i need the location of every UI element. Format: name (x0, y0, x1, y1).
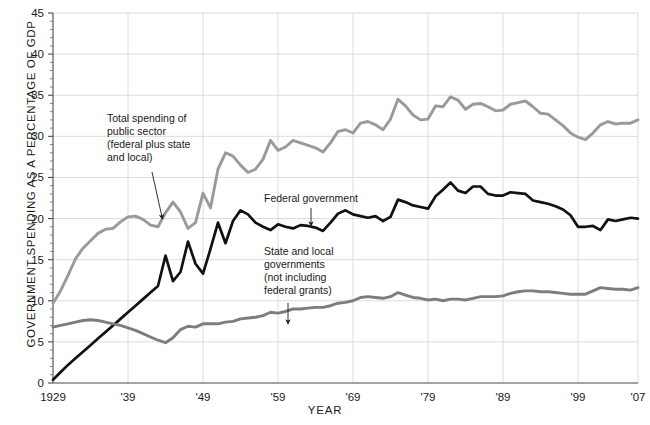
annotation-line: (federal plus state (107, 138, 191, 150)
federal-annotation: Federal government (264, 192, 358, 204)
annotation-line: State and local (264, 245, 333, 257)
x-tick-label: '79 (421, 391, 436, 403)
total-annotation: Total spending ofpublic sector(federal p… (107, 112, 191, 163)
annotation-line: governments (264, 258, 325, 270)
x-tick-label: '49 (196, 391, 211, 403)
y-tick-label: 5 (38, 336, 44, 348)
chart-figure: 051015202530354045 1929'39'49'59'69'79'8… (0, 0, 650, 425)
annotation-line: and local) (107, 151, 153, 163)
government-spending-line-chart: 051015202530354045 1929'39'49'59'69'79'8… (0, 0, 650, 425)
x-tick-label: '39 (121, 391, 136, 403)
annotation-line: Federal government (264, 192, 358, 204)
y-tick-label: 0 (38, 377, 44, 389)
x-axis-title: YEAR (0, 404, 650, 416)
y-axis-title: GOVERNMENT SPENDING AS A PERCENTAGE OF G… (25, 19, 37, 349)
x-tick-label: '07 (631, 391, 646, 403)
y-tick-label: 45 (31, 7, 44, 19)
x-tick-label: '99 (571, 391, 586, 403)
x-axis-ticks: 1929'39'49'59'69'79'89'99'07 (40, 391, 645, 403)
series-line-1 (53, 182, 638, 379)
annotation-line: Total spending of (107, 112, 186, 124)
annotation-line: public sector (107, 125, 166, 137)
annotation-line: (not including (264, 271, 327, 283)
annotation-line: federal grants) (264, 284, 332, 296)
x-tick-label: '59 (271, 391, 286, 403)
x-tick-label: '89 (496, 391, 511, 403)
annotations: Total spending ofpublic sector(federal p… (107, 112, 358, 322)
x-tick-label: 1929 (40, 391, 66, 403)
x-tick-label: '69 (346, 391, 361, 403)
series-line-2 (53, 288, 638, 343)
total-annotation-arrow (152, 172, 162, 217)
state-local-annotation: State and localgovernments(not including… (264, 245, 333, 296)
